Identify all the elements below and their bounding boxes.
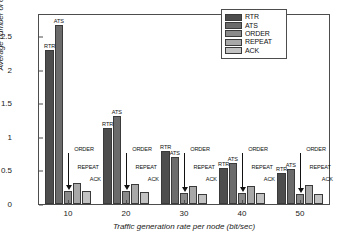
- bar-repeat-40: [247, 186, 256, 204]
- y-tick-mark: [39, 70, 43, 71]
- legend-label-ats: ATS: [245, 22, 258, 30]
- bar-label-ack-30: ACK: [206, 176, 217, 182]
- bar-rtr-50: [277, 173, 286, 205]
- legend-swatch-ats: [225, 22, 242, 29]
- y-tick-label: 2.5: [0, 32, 12, 41]
- bar-label-order-40: ORDER: [248, 146, 268, 152]
- bar-label-order-50: ORDER: [306, 146, 326, 152]
- x-axis-label: Traffic generation rate per node (bit/se…: [38, 222, 330, 231]
- bar-ack-40: [256, 193, 265, 204]
- y-tick-mark: [39, 37, 43, 38]
- figure-canvas: Average number of control packets 00.511…: [0, 0, 344, 243]
- bar-label-ats-40: ATS: [228, 156, 238, 162]
- order-annotation-arrow-20: [126, 153, 127, 186]
- bar-label-ats-10: ATS: [54, 18, 64, 24]
- legend-label-repeat: REPEAT: [245, 38, 272, 46]
- bar-label-ack-50: ACK: [322, 176, 333, 182]
- bar-label-repeat-40: REPEAT: [252, 164, 273, 170]
- y-tick-label: 0: [0, 200, 12, 209]
- bar-label-rtr-20: RTR: [102, 121, 113, 127]
- bar-ats-30: [171, 157, 180, 204]
- legend-item-rtr[interactable]: RTR: [225, 13, 283, 21]
- bar-ack-50: [314, 194, 323, 204]
- bar-rtr-40: [219, 168, 228, 204]
- y-axis-label: Average number of control packets: [0, 0, 5, 110]
- bar-label-rtr-40: RTR: [218, 161, 229, 167]
- x-tick-mark: [184, 200, 185, 204]
- bar-label-repeat-50: REPEAT: [310, 164, 331, 170]
- legend-label-rtr: RTR: [245, 13, 259, 21]
- bar-ats-10: [55, 25, 64, 204]
- bar-label-ats-30: ATS: [170, 150, 180, 156]
- bar-repeat-20: [131, 184, 140, 204]
- legend-item-ack[interactable]: ACK: [225, 47, 283, 55]
- bar-label-rtr-10: RTR: [44, 43, 55, 49]
- y-tick-mark: [39, 205, 43, 206]
- bar-label-repeat-10: REPEAT: [78, 164, 99, 170]
- x-tick-mark: [242, 200, 243, 204]
- x-tick-mark: [68, 200, 69, 204]
- x-tick-label-50: 50: [280, 209, 320, 218]
- bar-label-ats-20: ATS: [112, 109, 122, 115]
- order-annotation-arrow-30: [184, 153, 185, 188]
- bar-label-ack-20: ACK: [148, 176, 159, 182]
- order-annotation-arrow-40: [242, 153, 243, 188]
- bar-ats-40: [229, 163, 238, 204]
- bar-rtr-10: [45, 50, 54, 204]
- bar-ack-30: [198, 194, 207, 204]
- bar-ack-10: [82, 191, 91, 204]
- x-tick-label-20: 20: [106, 209, 146, 218]
- bar-rtr-20: [103, 128, 112, 204]
- y-tick-label: 1: [0, 132, 12, 141]
- x-tick-label-40: 40: [222, 209, 262, 218]
- x-tick-label-30: 30: [164, 209, 204, 218]
- legend-swatch-order: [225, 30, 242, 37]
- y-tick-label: 2: [0, 65, 12, 74]
- bar-label-ack-10: ACK: [90, 176, 101, 182]
- bar-label-repeat-30: REPEAT: [194, 164, 215, 170]
- bar-rtr-30: [161, 151, 170, 204]
- x-tick-label-10: 10: [48, 209, 88, 218]
- legend-swatch-rtr: [225, 14, 242, 21]
- bar-label-order-10: ORDER: [74, 146, 94, 152]
- bar-label-order-20: ORDER: [132, 146, 152, 152]
- chart-legend[interactable]: RTRATSORDERREPEATACK: [221, 9, 287, 59]
- bar-label-order-30: ORDER: [190, 146, 210, 152]
- order-annotation-arrow-50: [300, 153, 301, 189]
- legend-label-ack: ACK: [245, 47, 259, 55]
- bar-label-repeat-20: REPEAT: [136, 164, 157, 170]
- legend-swatch-ack: [225, 47, 242, 54]
- bar-label-ack-40: ACK: [264, 176, 275, 182]
- y-tick-mark: [39, 104, 43, 105]
- bar-repeat-50: [305, 185, 314, 204]
- bar-ats-50: [287, 169, 296, 204]
- order-annotation-arrow-10: [68, 153, 69, 186]
- y-tick-label: 1.5: [0, 99, 12, 108]
- legend-item-ats[interactable]: ATS: [225, 21, 283, 29]
- y-tick-label: 0.5: [0, 166, 12, 175]
- bar-repeat-10: [73, 183, 82, 204]
- bar-ats-20: [113, 116, 122, 204]
- legend-label-order: ORDER: [245, 30, 270, 38]
- y-tick-mark: [39, 171, 43, 172]
- x-tick-mark: [126, 200, 127, 204]
- legend-swatch-repeat: [225, 39, 242, 46]
- legend-item-order[interactable]: ORDER: [225, 30, 283, 38]
- bar-repeat-30: [189, 186, 198, 204]
- bar-ack-20: [140, 192, 149, 204]
- bar-label-ats-50: ATS: [286, 162, 296, 168]
- y-tick-mark: [39, 137, 43, 138]
- legend-item-repeat[interactable]: REPEAT: [225, 38, 283, 46]
- x-tick-mark: [300, 200, 301, 204]
